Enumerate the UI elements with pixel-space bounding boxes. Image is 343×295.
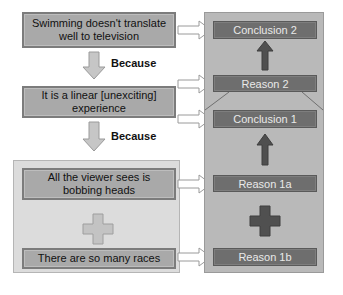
because-label-1: Because <box>111 57 156 69</box>
down-arrow-icon <box>82 52 106 80</box>
plus-icon <box>83 214 113 244</box>
up-arrow-icon <box>256 134 274 166</box>
reason-1b-abstract-text: Reason 1b <box>238 251 291 263</box>
claim-box: Swimming doesn't translate well to telev… <box>22 12 176 48</box>
conclusion-2-text: Conclusion 2 <box>233 24 297 36</box>
reason-2-text: It is a linear [unexciting] experience <box>28 89 170 115</box>
down-arrow-icon <box>82 122 106 152</box>
plus-icon <box>250 206 280 236</box>
reason-1a-text: All the viewer sees is bobbing heads <box>28 171 170 197</box>
reason-2-box: It is a linear [unexciting] experience <box>22 86 176 118</box>
reason-1b-abstract-box: Reason 1b <box>213 248 317 266</box>
reason-2-abstract-box: Reason 2 <box>213 75 317 92</box>
reason-2-abstract-text: Reason 2 <box>241 78 288 90</box>
reason-1a-abstract-box: Reason 1a <box>213 175 317 192</box>
connector-lines <box>204 90 324 112</box>
because-label-2: Because <box>111 130 156 142</box>
conclusion-2-box: Conclusion 2 <box>213 21 317 39</box>
reason-1a-box: All the viewer sees is bobbing heads <box>22 168 176 200</box>
up-arrow-icon <box>256 41 274 71</box>
conclusion-1-box: Conclusion 1 <box>213 110 317 128</box>
reason-1b-text: There are so many races <box>38 252 160 265</box>
reason-1b-box: There are so many races <box>22 248 176 269</box>
reason-1a-abstract-text: Reason 1a <box>238 178 291 190</box>
conclusion-1-text: Conclusion 1 <box>233 113 297 125</box>
claim-text: Swimming doesn't translate well to telev… <box>28 17 170 43</box>
